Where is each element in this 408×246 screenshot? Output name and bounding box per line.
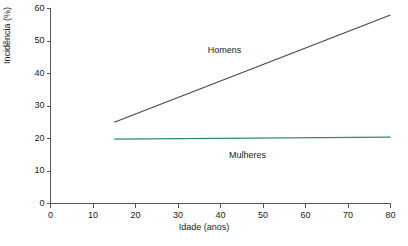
series-lines [114,15,390,139]
plot-area [0,0,408,246]
series-line-homens [114,15,390,122]
x-tick-marks [51,204,391,208]
y-tick-marks [47,9,51,204]
chart-figure: Incidência (%) Idade (anos) 010203040506… [0,0,408,246]
series-line-mulheres [114,137,390,139]
